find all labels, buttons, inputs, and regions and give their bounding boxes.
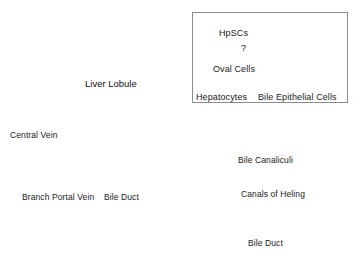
liver-lobule-title: Liver Lobule (85, 78, 137, 89)
label-canals-of-hering: Canals of Heling (241, 189, 305, 199)
label-bile-duct-bottom: Bile Duct (248, 238, 283, 248)
label-branch-portal-vein: Branch Portal Vein (22, 192, 94, 202)
node-bile-epithelial-cells: Bile Epithelial Cells (258, 92, 337, 102)
lineage-inset-box (193, 13, 348, 103)
node-hepatocytes: Hepatocytes (196, 92, 247, 102)
node-oval-cells: Oval Cells (213, 64, 255, 74)
node-hpscs: HpSCs (219, 28, 248, 38)
node-question-mark: ? (241, 43, 246, 53)
label-bile-canaliculi: Bile Canaliculi (238, 155, 293, 165)
label-bile-duct-lobule: Bile Duct (104, 192, 139, 202)
figure-canvas: Liver Lobule Central Vein Branch Portal … (0, 0, 360, 263)
label-central-vein: Central Vein (10, 130, 58, 140)
